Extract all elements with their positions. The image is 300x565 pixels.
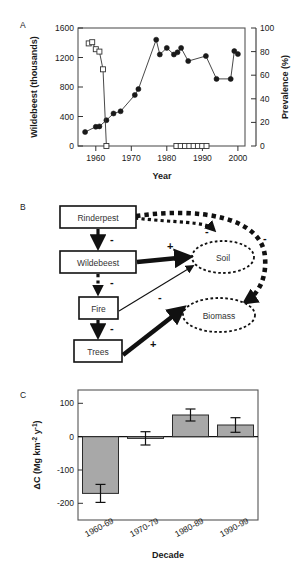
yaxis-title-part-2: y (32, 429, 42, 437)
node-wildebeest-label: Wildebeest (77, 258, 120, 268)
panel-a-y2tick-80: 80 (260, 47, 270, 57)
edge-wildebeest-soil (137, 257, 188, 262)
panel-a-xtick-1990: 1990 (193, 153, 212, 163)
node-biomass-label: Biomass (203, 311, 236, 321)
panel-a-ytick-400: 400 (60, 112, 74, 122)
node-rinderpest-label: Rinderpest (77, 213, 119, 223)
sign-rinderpest-soil: - (205, 225, 209, 237)
panel-a-series-prevalence (86, 40, 209, 149)
panel-a-xtick-2000: 2000 (228, 153, 247, 163)
node-fire-label: Fire (91, 304, 106, 314)
panel-a-xaxis: 1960 1970 1980 1990 2000 (86, 146, 247, 163)
panel-a: A 0 400 800 1200 1600 (0, 0, 300, 190)
panel-a-xaxis-title: Year (152, 171, 172, 181)
panel-c-ytick-100: 100 (60, 398, 74, 408)
node-soil-label: Soil (216, 253, 230, 263)
panel-c-yaxis: 100 0 -100 -200 (57, 398, 83, 508)
panel-b-label: B (20, 202, 26, 212)
panel-a-y2tick-60: 60 (260, 70, 270, 80)
node-trees: Trees (74, 340, 122, 362)
panel-b-svg: B Rinderpest Wildebeest Fire Trees (0, 185, 300, 375)
sign-rinderpest-biomass: - (263, 232, 267, 244)
panel-c-svg: C 100 0 -100 -200 (0, 370, 300, 565)
panel-a-xtick-1980: 1980 (157, 153, 176, 163)
node-wildebeest: Wildebeest (60, 251, 136, 273)
sign-wildebeest-soil: + (167, 240, 173, 252)
panel-a-xtick-1970: 1970 (122, 153, 141, 163)
node-soil: Soil (192, 241, 254, 273)
panel-a-yaxis-right: 0 20 40 60 80 100 (251, 23, 274, 151)
sign-fire-soil: - (158, 291, 162, 303)
panel-c-xaxis-title: Decade (152, 550, 184, 560)
svg-text:ΔC (Mg km-2 y-1): ΔC (Mg km-2 y-1) (31, 420, 43, 489)
panel-c-xtick-1980-89: 1980-89 (173, 515, 205, 539)
panel-a-y2tick-0: 0 (260, 141, 265, 151)
panel-c-ytick-neg100: -100 (57, 465, 74, 475)
panel-a-plot-frame (78, 28, 245, 146)
sign-wildebeest-fire: - (110, 276, 114, 288)
panel-a-ytick-0: 0 (69, 141, 74, 151)
node-rinderpest: Rinderpest (60, 206, 136, 228)
panel-a-y2tick-20: 20 (260, 117, 270, 127)
panel-a-ytick-1600: 1600 (55, 23, 74, 33)
panel-c-ytick-0: 0 (69, 432, 74, 442)
sign-trees-biomass: + (150, 338, 156, 350)
panel-c-xtick-1970-79: 1970-79 (128, 515, 160, 539)
panel-c-yaxis-title: ΔC (Mg km-2 y-1) (31, 420, 43, 489)
panel-a-svg: A 0 400 800 1200 1600 (0, 0, 300, 190)
panel-a-yaxis-left: 0 400 800 1200 1600 (55, 23, 83, 151)
panel-c-label: C (20, 390, 26, 400)
node-biomass: Biomass (183, 298, 255, 332)
panel-a-label: A (20, 20, 26, 30)
panel-a-ytick-1200: 1200 (55, 53, 74, 63)
panel-c: C 100 0 -100 -200 (0, 370, 300, 565)
edge-rinderpest-soil (135, 218, 213, 229)
panel-a-xtick-1960: 1960 (86, 153, 105, 163)
yaxis-title-part-3: ) (32, 420, 42, 423)
panel-a-series-wildebeest (83, 37, 241, 134)
node-fire: Fire (79, 297, 118, 319)
node-trees-label: Trees (87, 347, 108, 357)
panel-a-y2tick-40: 40 (260, 94, 270, 104)
sign-rinderpest-wildebeest: - (110, 233, 114, 245)
yaxis-title-part-1: ΔC (Mg km (32, 443, 42, 490)
panel-a-yaxis-left-title: Wildebeest (thousands) (29, 36, 39, 137)
panel-b: B Rinderpest Wildebeest Fire Trees (0, 185, 300, 375)
panel-a-y2tick-100: 100 (260, 23, 274, 33)
panel-c-ytick-neg200: -200 (57, 498, 74, 508)
panel-c-xtick-1990-99: 1990-99 (218, 515, 250, 539)
figure-container: A 0 400 800 1200 1600 (0, 0, 300, 565)
panel-c-xtick-1960-69: 1960-69 (83, 515, 115, 539)
panel-a-yaxis-right-title: Prevalence (%) (280, 55, 290, 119)
panel-a-ytick-800: 800 (60, 82, 74, 92)
sign-fire-trees: - (110, 322, 114, 334)
